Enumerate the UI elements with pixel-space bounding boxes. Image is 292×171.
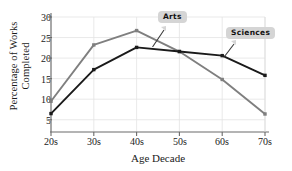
plot-area <box>0 0 292 171</box>
annotation-sciences: Sciences <box>226 27 275 39</box>
line-chart: Percentage of Works Completed 30 25 20 1… <box>0 0 292 171</box>
annotation-arts: Arts <box>158 11 187 23</box>
